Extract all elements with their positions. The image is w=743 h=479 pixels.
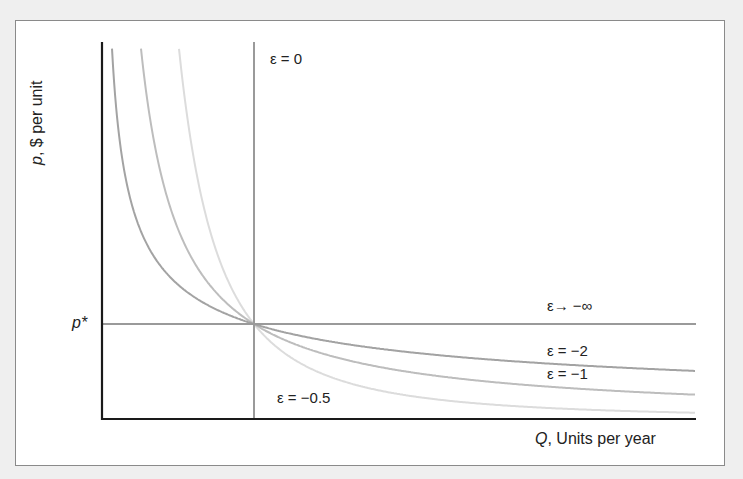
- label-elasticity-infinite: ε→ −∞: [547, 297, 592, 314]
- demand-curve-elasticity-minus-2: [112, 49, 695, 371]
- label-elasticity-minus-1: ε = −1: [547, 365, 588, 382]
- x-axis-label: Q, Units per year: [535, 430, 656, 448]
- demand-curve-elasticity-minus-0-5: [179, 49, 695, 413]
- label-elasticity-minus-2: ε = −2: [547, 342, 588, 359]
- demand-curve-elasticity-minus-1: [141, 49, 695, 395]
- demand-curves-plot: [0, 0, 743, 479]
- label-elasticity-zero: ε = 0: [270, 50, 302, 67]
- p-star-tick-label: p*: [72, 314, 87, 332]
- label-elasticity-minus-0-5: ε = −0.5: [277, 389, 330, 406]
- y-axis-label: p, $ per unit: [28, 80, 46, 165]
